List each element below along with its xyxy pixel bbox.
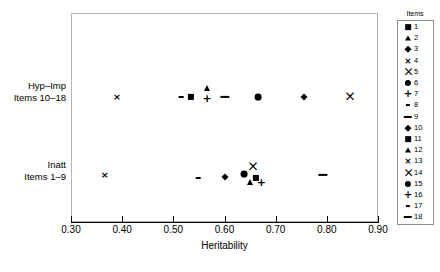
- legend-label-17: 17: [414, 200, 422, 211]
- legend-item-13[interactable]: ×13: [398, 155, 433, 166]
- legend-item-8[interactable]: 8: [398, 99, 433, 110]
- marker-long-dash-icon: [404, 216, 412, 218]
- x-tick-label: 0.30: [51, 224, 91, 235]
- category-label-hyp-imp: Hyp–Imp Items 10–18: [0, 80, 66, 104]
- legend-swatch-14: ⨉: [401, 167, 414, 178]
- legend-item-2[interactable]: 2: [398, 32, 433, 43]
- legend-label-4: 4: [414, 55, 418, 66]
- x-tick-mark: [71, 216, 72, 223]
- category-label-inatt: Inatt Items 1–9: [0, 159, 66, 183]
- legend-swatch-8: [401, 99, 414, 110]
- x-tick-label: 0.70: [256, 224, 296, 235]
- x-tick-mark: [173, 216, 174, 223]
- legend-swatch-18: [401, 211, 414, 222]
- legend-item-4[interactable]: ×4: [398, 55, 433, 66]
- category-label-hyp-imp-line1: Hyp–Imp: [0, 80, 66, 92]
- legend-label-16: 16: [414, 189, 422, 200]
- legend-label-7: 7: [414, 88, 418, 99]
- legend-item-17[interactable]: 17: [398, 200, 433, 211]
- legend-swatch-5: ⨉: [401, 66, 414, 77]
- x-tick-label: 0.50: [153, 224, 193, 235]
- legend-item-18[interactable]: 18: [398, 211, 433, 222]
- legend-swatch-2: [401, 32, 414, 43]
- legend-item-11[interactable]: 11: [398, 133, 433, 144]
- legend-label-9: 9: [414, 111, 418, 122]
- marker-circle-icon: [405, 80, 411, 86]
- plot-area: [71, 13, 378, 222]
- category-label-inatt-line2: Items 1–9: [0, 171, 66, 183]
- marker-cross-x-icon: ×: [404, 56, 411, 65]
- marker-plus-icon: +: [404, 89, 412, 99]
- legend-item-14[interactable]: ⨉14: [398, 166, 433, 177]
- legend-swatch-15: [401, 178, 414, 189]
- legend-label-8: 8: [414, 99, 418, 110]
- legend-box: 123×4⨉56+789101112×13⨉1415+161718: [397, 20, 434, 225]
- legend-label-14: 14: [414, 167, 422, 178]
- legend-swatch-13: ×: [401, 155, 414, 166]
- legend-item-9[interactable]: 9: [398, 111, 433, 122]
- marker-cross-x-icon: ×: [404, 157, 411, 166]
- legend-swatch-1: [401, 21, 414, 32]
- legend-swatch-11: [401, 133, 414, 144]
- legend-label-11: 11: [414, 133, 422, 144]
- marker-long-dash-icon: [404, 116, 412, 118]
- marker-short-dash-icon: [406, 205, 410, 207]
- x-tick-label: 0.40: [102, 224, 142, 235]
- legend-swatch-12: [401, 144, 414, 155]
- legend-title: Items: [395, 10, 435, 17]
- marker-triangle-icon: [405, 148, 411, 153]
- legend-item-7[interactable]: +7: [398, 88, 433, 99]
- x-tick-label: 0.80: [307, 224, 347, 235]
- legend-swatch-3: [401, 43, 414, 54]
- legend-label-13: 13: [414, 155, 422, 166]
- marker-square-icon: [405, 24, 411, 30]
- legend-label-18: 18: [414, 211, 422, 222]
- marker-bowtie-x-icon: ⨉: [405, 168, 412, 177]
- legend-item-12[interactable]: 12: [398, 144, 433, 155]
- legend-swatch-17: [401, 200, 414, 211]
- legend-swatch-10: [401, 122, 414, 133]
- x-tick-mark: [122, 216, 123, 223]
- marker-triangle-icon: [405, 36, 411, 41]
- legend-swatch-4: ×: [401, 55, 414, 66]
- legend-swatch-16: +: [401, 189, 414, 200]
- marker-diamond-icon: [405, 125, 411, 131]
- legend-item-1[interactable]: 1: [398, 21, 433, 32]
- legend-item-5[interactable]: ⨉5: [398, 66, 433, 77]
- x-tick-mark: [225, 216, 226, 223]
- x-tick-mark: [378, 216, 379, 223]
- legend-swatch-9: [401, 111, 414, 122]
- legend-item-15[interactable]: 15: [398, 178, 433, 189]
- marker-plus-icon: +: [404, 190, 412, 200]
- legend-item-10[interactable]: 10: [398, 122, 433, 133]
- category-label-hyp-imp-line2: Items 10–18: [0, 92, 66, 104]
- marker-diamond-icon: [405, 46, 411, 52]
- legend-label-10: 10: [414, 122, 422, 133]
- category-label-inatt-line1: Inatt: [0, 159, 66, 171]
- x-tick-mark: [276, 216, 277, 223]
- x-tick-label: 0.60: [205, 224, 245, 235]
- legend-swatch-7: +: [401, 88, 414, 99]
- legend-label-15: 15: [414, 178, 422, 189]
- x-axis-title: Heritability: [71, 240, 378, 251]
- legend-label-12: 12: [414, 144, 422, 155]
- legend-label-3: 3: [414, 43, 418, 54]
- legend-item-16[interactable]: +16: [398, 189, 433, 200]
- marker-square-icon: [405, 136, 411, 142]
- x-tick-label: 0.90: [358, 224, 398, 235]
- heritability-scatter-figure: Hyp–Imp Items 10–18 Inatt Items 1–9 0.30…: [0, 0, 440, 272]
- x-tick-mark: [327, 216, 328, 223]
- legend-swatch-6: [401, 77, 414, 88]
- legend-label-1: 1: [414, 21, 418, 32]
- marker-bowtie-x-icon: ⨉: [405, 67, 412, 76]
- legend-item-6[interactable]: 6: [398, 77, 433, 88]
- legend-label-6: 6: [414, 77, 418, 88]
- legend-label-5: 5: [414, 66, 418, 77]
- legend-label-2: 2: [414, 32, 418, 43]
- marker-short-dash-icon: [406, 104, 410, 106]
- legend-item-3[interactable]: 3: [398, 43, 433, 54]
- marker-circle-icon: [405, 181, 411, 187]
